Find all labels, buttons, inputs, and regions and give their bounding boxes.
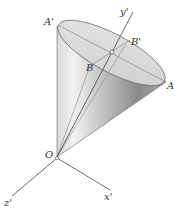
cone-diagram: A' A B' B y' O z' x' [0, 0, 175, 213]
label-A: A [166, 80, 174, 91]
center-point [110, 50, 114, 54]
z-prime-axis [12, 158, 57, 196]
label-A-prime: A' [43, 16, 54, 27]
label-y-prime: y' [119, 6, 128, 17]
label-z-prime: z' [3, 197, 12, 208]
x-prime-axis [57, 158, 110, 190]
label-x-prime: x' [104, 191, 112, 202]
label-B-prime: B' [130, 36, 141, 47]
label-B: B [85, 62, 93, 73]
label-O: O [45, 149, 53, 160]
origin-point [56, 157, 59, 160]
